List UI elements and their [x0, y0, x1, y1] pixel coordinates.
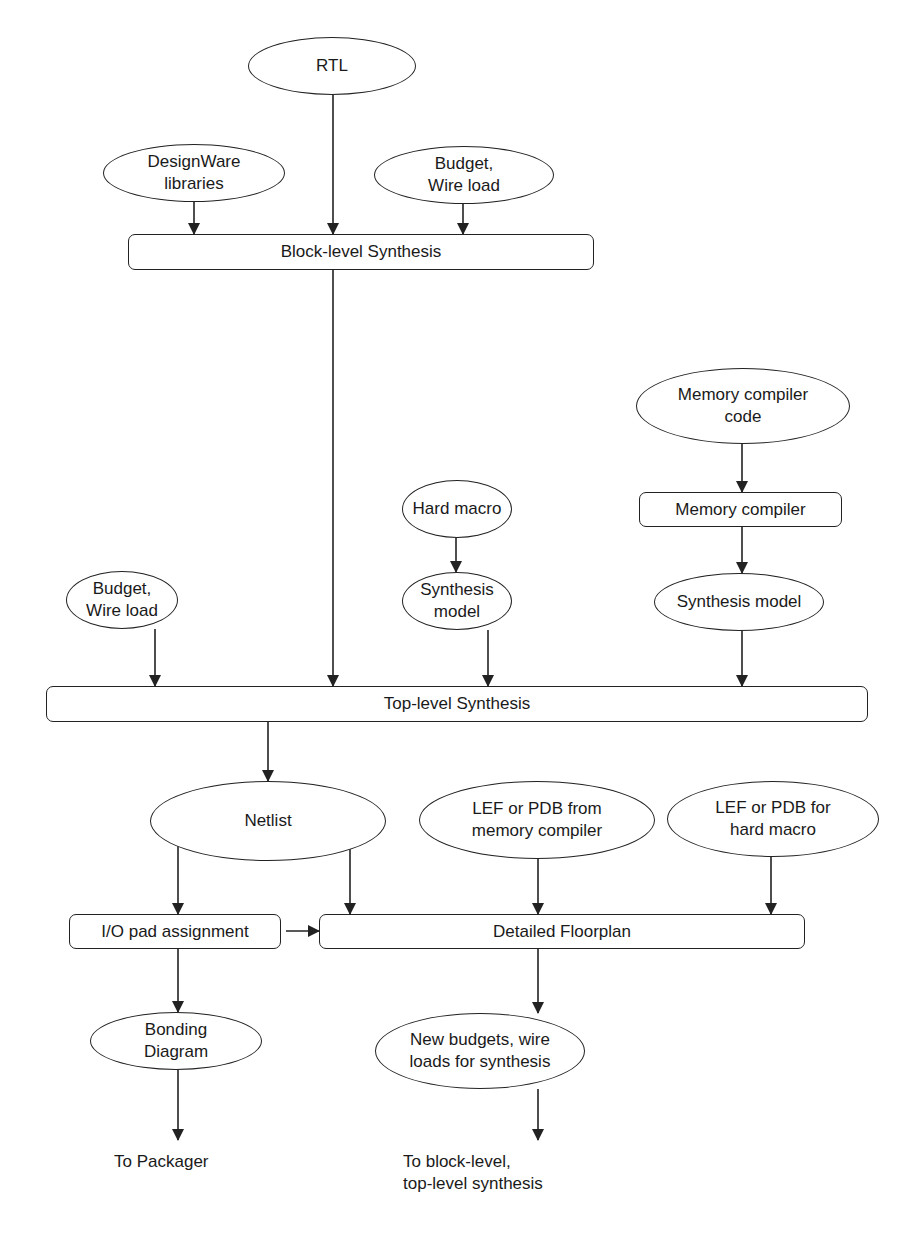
new-budgets-node: New budgets, wire loads for synthesis [375, 1013, 585, 1089]
lef-pdb-memory-node: LEF or PDB from memory compiler [419, 781, 655, 859]
bonding-diagram-node: Bonding Diagram [90, 1012, 262, 1070]
top-level-synthesis-box: Top-level Synthesis [46, 686, 868, 722]
netlist-node: Netlist [150, 781, 386, 861]
synthesis-model-memory-node: Synthesis model [654, 573, 824, 631]
memory-compiler-box: Memory compiler [639, 492, 842, 527]
designware-libraries-node: DesignWare libraries [103, 144, 285, 202]
to-block-top-synthesis-label: To block-level, top-level synthesis [403, 1151, 603, 1195]
to-packager-label: To Packager [114, 1151, 254, 1173]
io-pad-assignment-box: I/O pad assignment [69, 914, 281, 949]
rtl-node: RTL [248, 37, 416, 95]
hard-macro-node: Hard macro [402, 480, 512, 538]
budget-wire-load-node-mid: Budget, Wire load [66, 571, 178, 629]
detailed-floorplan-box: Detailed Floorplan [319, 914, 805, 949]
memory-compiler-code-node: Memory compiler code [636, 368, 850, 444]
block-level-synthesis-box: Block-level Synthesis [128, 234, 594, 270]
synthesis-model-hard-macro-node: Synthesis model [402, 572, 512, 630]
flow-diagram: RTL DesignWare libraries Budget, Wire lo… [0, 0, 923, 1239]
lef-pdb-hard-macro-node: LEF or PDB for hard macro [667, 781, 879, 857]
budget-wire-load-node-top: Budget, Wire load [374, 146, 554, 204]
